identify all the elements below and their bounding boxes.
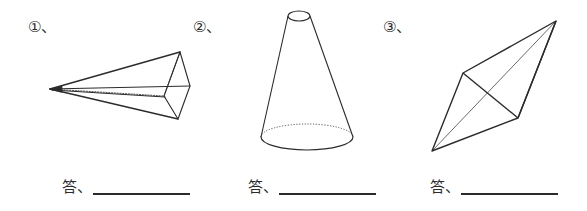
item-number-2: ②、 xyxy=(193,20,221,35)
cone-top-ellipse xyxy=(288,11,310,21)
answer-label-2: 答、 xyxy=(248,178,278,198)
pyramid-edge-apex-to-top xyxy=(50,52,180,89)
item-number-1: ①、 xyxy=(28,20,56,35)
tetrahedron-edge-left-to-rightmid xyxy=(463,73,518,118)
worksheet-page: ①、 ②、 ③、 xyxy=(0,0,587,211)
cone-bottom-back-arc xyxy=(261,124,353,137)
tetrahedron-edge-rightmid-to-apex xyxy=(518,21,556,118)
pyramid-edge-apex-to-bottom xyxy=(50,89,178,119)
tetrahedron-outline xyxy=(432,21,556,151)
tetrahedron-figure xyxy=(432,21,556,151)
answer-slot-1: 答、 xyxy=(62,172,190,198)
oblique-pyramid-figure xyxy=(50,52,190,119)
answer-row: 答、 答、 答、 xyxy=(0,168,587,208)
answer-slot-3: 答、 xyxy=(430,172,558,198)
answer-label-1: 答、 xyxy=(62,178,92,198)
cone-right-side xyxy=(310,16,353,137)
tetrahedron-edge-apex-to-bottomleft xyxy=(432,21,556,151)
answer-slot-2: 答、 xyxy=(248,172,376,198)
answer-label-3: 答、 xyxy=(430,178,460,198)
cone-bottom-front-arc xyxy=(261,137,353,150)
truncated-cone-figure xyxy=(261,11,353,150)
pyramid-base-outline xyxy=(164,52,190,119)
item-number-3: ③、 xyxy=(383,20,411,35)
pyramid-base-hidden-edge-top xyxy=(164,52,180,96)
pyramid-hidden-edge-apex-to-back xyxy=(50,89,164,96)
pyramid-front-crease xyxy=(52,90,165,97)
answer-blank-1[interactable] xyxy=(93,193,190,195)
answer-blank-2[interactable] xyxy=(279,193,376,195)
answer-blank-3[interactable] xyxy=(461,193,558,195)
pyramid-edge-apex-to-right xyxy=(50,86,190,89)
pyramid-apex-tip xyxy=(50,86,62,92)
cone-left-side xyxy=(261,16,288,137)
